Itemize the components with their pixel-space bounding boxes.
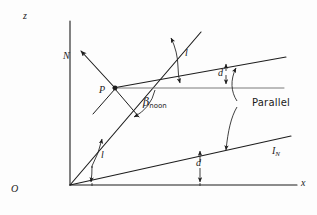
beta-subscript: noon <box>149 102 166 110</box>
x-axis-label: x <box>301 178 305 188</box>
irradiance-subscript: N <box>275 150 280 158</box>
point-p-label: P <box>99 85 105 95</box>
angle-d-upper-label: d <box>218 68 223 78</box>
angle-beta-noon-label: βnoon <box>143 93 167 109</box>
angle-l-lower-label: l <box>101 150 104 160</box>
normal-vector-label: N <box>63 51 70 61</box>
parallel-leader-lower <box>226 107 237 150</box>
lower-right-short-ray <box>115 89 139 117</box>
irradiance-vector-ray <box>70 136 291 185</box>
origin-label: O <box>11 184 18 194</box>
point-p-marker <box>113 86 118 91</box>
angle-arc-l-upper-lower-leg <box>178 67 180 83</box>
ray-group <box>70 32 291 185</box>
tilted-surface-line-at-p <box>113 57 286 88</box>
figure-canvas: z x O P N l d l d βnoon Parallel IN <box>0 0 317 215</box>
angle-arc-group <box>91 38 226 182</box>
solar-beam-ray <box>70 32 201 185</box>
parallel-callout-group <box>226 68 237 150</box>
parallel-annotation-label: Parallel <box>252 98 290 108</box>
irradiance-vector-label: IN <box>272 141 280 157</box>
parallel-leader-upper <box>232 68 237 101</box>
angle-d-lower-label: d <box>196 158 201 168</box>
z-axis-label: z <box>23 11 27 21</box>
angle-l-upper-label: l <box>185 48 188 58</box>
normal-vector-n <box>81 51 115 88</box>
